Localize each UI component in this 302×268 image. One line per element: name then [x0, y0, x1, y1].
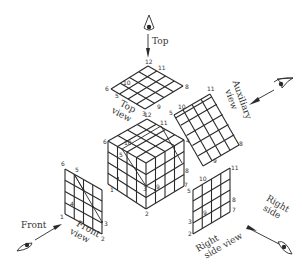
svg-text:11: 11	[160, 119, 168, 126]
svg-text:3: 3	[104, 220, 108, 227]
arrow-down-icon	[146, 48, 150, 58]
svg-text:6: 6	[103, 138, 107, 145]
svg-text:11: 11	[231, 164, 239, 171]
svg-text:1: 1	[110, 186, 114, 193]
svg-text:9: 9	[156, 183, 160, 190]
right-direction: Right side	[246, 193, 292, 254]
cube-projection-diagram: Top 12 11 6 10 5 8 3 9 Top view	[0, 0, 302, 268]
front-direction-label: Front	[21, 220, 47, 230]
isometric-cube: 12 11 6 10 5 4 8 1 3 9 7 2	[103, 111, 190, 217]
svg-text:2: 2	[188, 230, 192, 237]
svg-text:6: 6	[105, 85, 109, 92]
svg-text:8: 8	[185, 167, 189, 174]
svg-text:9: 9	[203, 209, 207, 216]
svg-text:2: 2	[145, 210, 149, 217]
svg-text:11: 11	[207, 85, 215, 92]
svg-text:12: 12	[145, 58, 153, 65]
svg-text:6: 6	[61, 160, 65, 167]
svg-text:1: 1	[60, 213, 64, 220]
arrow-icon	[53, 224, 62, 230]
svg-text:4: 4	[70, 200, 74, 207]
svg-text:7: 7	[232, 206, 236, 213]
svg-text:5: 5	[119, 151, 123, 158]
svg-text:5: 5	[169, 109, 173, 116]
svg-text:9: 9	[157, 103, 161, 110]
eye-icon	[17, 243, 32, 251]
svg-text:8: 8	[232, 196, 236, 203]
svg-text:8: 8	[239, 140, 243, 147]
top-direction: Top	[144, 15, 169, 58]
svg-text:10: 10	[199, 175, 207, 182]
svg-text:11: 11	[158, 64, 166, 71]
svg-text:5: 5	[75, 166, 79, 173]
svg-text:10: 10	[124, 139, 132, 146]
auxiliary-direction: Auxiliary view	[221, 78, 293, 125]
svg-text:8: 8	[185, 83, 189, 90]
svg-text:3: 3	[143, 185, 147, 192]
right-side-view: 11 10 5 8 7 3 9 2 Right side view	[187, 164, 244, 262]
eye-icon	[274, 78, 293, 88]
svg-text:4: 4	[186, 137, 190, 144]
svg-text:5: 5	[187, 187, 191, 194]
svg-text:9: 9	[213, 157, 217, 164]
front-view: 6 5 4 1 3 2 Front view	[60, 160, 108, 248]
svg-text:12: 12	[144, 111, 152, 118]
eye-icon	[144, 15, 154, 30]
svg-text:5: 5	[115, 92, 119, 99]
svg-text:10: 10	[178, 103, 186, 110]
arrow-icon	[249, 97, 260, 105]
eye-icon	[278, 242, 292, 255]
svg-text:2: 2	[101, 235, 105, 242]
svg-text:3: 3	[188, 218, 192, 225]
top-direction-label: Top	[152, 36, 169, 46]
front-direction: Front	[17, 220, 62, 251]
svg-text:10: 10	[123, 79, 131, 86]
